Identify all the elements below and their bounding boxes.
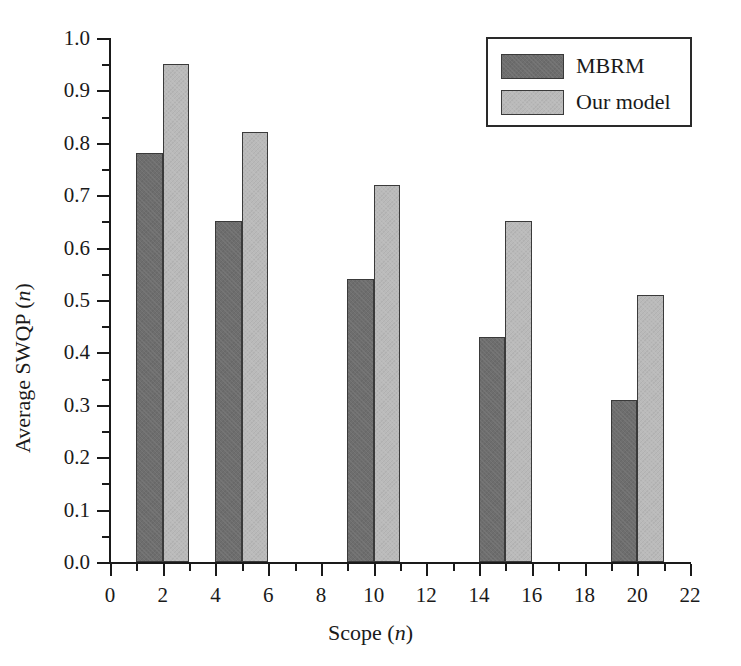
y-axis-tick-minor	[102, 483, 110, 485]
x-axis-tick-major	[110, 564, 112, 576]
x-axis-tick-major	[321, 564, 323, 576]
x-axis-tick-minor	[242, 564, 244, 571]
bar	[611, 400, 637, 562]
x-axis-tick-label: 16	[502, 582, 562, 608]
y-axis-tick-label: 0.5	[20, 286, 90, 314]
x-axis-tick-minor	[189, 564, 191, 571]
y-axis-tick-label: 0.4	[20, 338, 90, 366]
y-axis-tick-label: 0.2	[20, 443, 90, 471]
x-axis-tick-major	[637, 564, 639, 576]
x-axis-tick-label: 22	[660, 582, 720, 608]
x-axis-tick-label: 12	[396, 582, 456, 608]
legend-swatch-mbrm	[501, 54, 564, 79]
bar	[215, 221, 241, 562]
y-axis-tick-minor	[102, 64, 110, 66]
x-axis-tick-minor	[347, 564, 349, 571]
legend-entry-our-model: Our model	[501, 84, 690, 120]
x-axis-tick-label: 2	[133, 582, 193, 608]
legend-label-mbrm: MBRM	[576, 53, 644, 79]
x-axis-tick-major	[426, 564, 428, 576]
x-axis-tick-major	[479, 564, 481, 576]
x-axis-tick-minor	[558, 564, 560, 571]
x-axis-tick-label: 14	[449, 582, 509, 608]
x-axis-tick-label: 10	[344, 582, 404, 608]
y-axis-tick-minor	[102, 431, 110, 433]
legend-label-our-model: Our model	[576, 89, 671, 115]
x-axis-tick-minor	[505, 564, 507, 571]
legend-entry-mbrm: MBRM	[501, 48, 690, 84]
y-axis-tick-label: 0.6	[20, 234, 90, 262]
y-axis-tick-major	[97, 38, 110, 40]
x-axis-title-tail: )	[406, 620, 413, 645]
y-axis-tick-major	[97, 248, 110, 250]
bar	[505, 221, 531, 562]
y-axis-tick-major	[97, 90, 110, 92]
x-axis-tick-major	[532, 564, 534, 576]
y-axis-tick-label: 0.1	[20, 496, 90, 524]
y-axis-tick-major	[97, 195, 110, 197]
x-axis-tick-minor	[453, 564, 455, 571]
y-axis-tick-major	[97, 405, 110, 407]
x-axis-tick-minor	[136, 564, 138, 571]
x-axis-title: Scope (n)	[0, 620, 741, 646]
y-axis-tick-label: 0.9	[20, 76, 90, 104]
y-axis-tick-minor	[102, 221, 110, 223]
y-axis-tick-label: 0.8	[20, 129, 90, 157]
x-axis-tick-minor	[295, 564, 297, 571]
bar	[136, 153, 162, 562]
y-axis-tick-label: 0.3	[20, 391, 90, 419]
x-axis-tick-major	[215, 564, 217, 576]
x-axis-tick-major	[374, 564, 376, 576]
x-axis-tick-label: 0	[80, 582, 140, 608]
y-axis-title-text: Average SWQP (	[10, 301, 35, 453]
bar	[163, 64, 189, 562]
y-axis-tick-major	[97, 562, 110, 564]
x-axis-tick-major	[690, 564, 692, 576]
x-axis-tick-major	[163, 564, 165, 576]
x-axis-tick-major	[585, 564, 587, 576]
x-axis-tick-minor	[664, 564, 666, 571]
bar	[374, 185, 400, 562]
y-axis-tick-major	[97, 300, 110, 302]
x-axis-tick-label: 20	[607, 582, 667, 608]
y-axis-tick-minor	[102, 117, 110, 119]
y-axis-tick-label: 0.0	[20, 548, 90, 576]
y-axis-tick-minor	[102, 536, 110, 538]
y-axis-tick-label: 0.7	[20, 181, 90, 209]
bar	[637, 295, 663, 562]
x-axis-tick-label: 18	[555, 582, 615, 608]
y-axis-tick-minor	[102, 274, 110, 276]
x-axis-tick-major	[268, 564, 270, 576]
bar	[347, 279, 373, 562]
bar	[242, 132, 268, 562]
x-axis-tick-label: 4	[185, 582, 245, 608]
x-axis-tick-minor	[611, 564, 613, 571]
x-axis-title-italic-n: n	[395, 620, 406, 645]
y-axis-tick-minor	[102, 379, 110, 381]
y-axis-tick-minor	[102, 326, 110, 328]
y-axis-tick-label: 1.0	[20, 24, 90, 52]
bar-chart-figure: Average SWQP (n) 02468101214161820220.00…	[0, 0, 741, 666]
y-axis-tick-major	[97, 457, 110, 459]
legend-swatch-our-model	[501, 90, 564, 115]
x-axis-tick-label: 8	[291, 582, 351, 608]
x-axis-tick-minor	[400, 564, 402, 571]
y-axis-tick-major	[97, 352, 110, 354]
y-axis-tick-major	[97, 510, 110, 512]
bar	[479, 337, 505, 562]
x-axis-title-text: Scope (	[328, 620, 395, 645]
y-axis-tick-major	[97, 143, 110, 145]
y-axis-tick-minor	[102, 169, 110, 171]
legend: MBRM Our model	[486, 37, 692, 127]
x-axis-tick-label: 6	[238, 582, 298, 608]
